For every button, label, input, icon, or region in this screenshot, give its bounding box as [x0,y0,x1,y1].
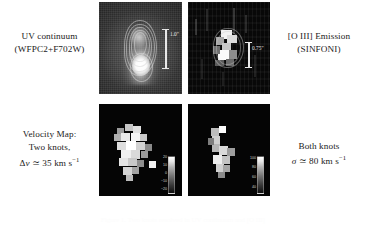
panel-dispersion-map: 100 80 60 40 [188,104,270,196]
velocity-colorbar-tick: −10 [157,180,167,184]
label-sigma-line2: σ ≃ 80 km s−1 [272,153,366,168]
panel-uv-continuum: 1.0″ [99,2,182,94]
label-oiii-line2: (SINFONI) [272,43,366,56]
label-oiii-line1: [O III] Emission [272,30,366,43]
uv-scalebar-cap-bottom [162,68,169,69]
dispersion-pixel [218,172,225,178]
velocity-pixel [141,151,148,158]
sigma-exponent: −1 [339,154,346,161]
oiii-scalebar-cap-top [245,42,252,43]
label-velocity-map: Velocity Map: Two knots, Δv ≃ 35 km s−1 [0,128,99,170]
velocity-pixel [132,167,139,174]
velocity-pixel [136,142,145,150]
velocity-colorbar-tick: 0 [157,172,167,176]
dispersion-pixel [211,128,219,136]
velocity-pixel [123,167,132,175]
oiii-noise-streak [245,15,247,33]
label-uv-continuum: UV continuum (WFPC2+F702W) [0,30,99,57]
velocity-pixel [140,134,147,141]
velocity-pixel [126,141,136,150]
velocity-colorbar-tick: −20 [157,188,167,192]
dispersion-colorbar-tick: 100 [244,157,256,161]
panel-velocity-map: 20 10 0 −10 −20 [99,104,182,196]
dispersion-pixel [219,126,226,133]
dispersion-colorbar [257,156,264,194]
label-uv-line1: UV continuum [0,30,99,43]
dispersion-pixel [208,138,214,145]
velocity-pixel [128,158,137,166]
oiii-scalebar-label: 0.75″ [252,45,264,51]
uv-scalebar-label: 1.0″ [170,31,179,37]
dispersion-pixel [222,156,230,164]
oiii-noise-streak [195,19,197,35]
velocity-pixel [126,175,133,181]
velocity-pixel [121,133,130,141]
velocity-pixel [117,142,126,150]
figure-root: UV continuum (WFPC2+F702W) [O III] Emiss… [0,0,366,226]
velocity-pixel [149,161,156,168]
oiii-noise-streak [201,59,203,79]
oiii-scalebar-cap-bottom [245,67,252,68]
label-oiii-emission: [O III] Emission (SINFONI) [272,30,366,57]
label-vel-line2: Two knots, [0,141,99,154]
velocity-colorbar [168,156,175,194]
dispersion-colorbar-tick: 80 [244,166,256,170]
uv-scalebar-cap-top [162,29,169,30]
oiii-noise-streak [254,55,256,77]
oiii-noise-streak [206,9,208,31]
label-sigma-line1: Both knots [272,140,366,153]
oiii-scalebar [248,42,250,68]
velocity-pixel [131,133,140,141]
velocity-pixel [119,158,128,166]
velocity-pixel [137,160,144,167]
velocity-pixel [114,134,121,141]
velocity-exponent: −1 [72,156,79,163]
velocity-value: ≃ 35 km s [30,158,72,168]
velocity-pixel [125,124,133,131]
sigma-value: ≃ 80 km s [297,156,339,166]
label-uv-line2: (WFPC2+F702W) [0,43,99,56]
figure-bottom-caption: Figure 1. Two knots resolved in UV conti… [0,216,366,225]
panel-oiii-emission: 0.75″ [188,2,270,94]
velocity-colorbar-tick: 10 [157,164,167,168]
label-vel-line1: Velocity Map: [0,128,99,141]
velocity-colorbar-tick: 20 [157,156,167,160]
dispersion-colorbar-tick: 40 [244,186,256,190]
label-dispersion: Both knots σ ≃ 80 km s−1 [272,140,366,169]
dispersion-colorbar-tick: 60 [244,176,256,180]
oiii-contour-2 [216,31,241,64]
uv-scalebar [165,29,167,69]
dispersion-pixel [223,165,230,172]
label-vel-line3: Δv ≃ 35 km s−1 [0,155,99,170]
oiii-noise-streak [222,72,224,86]
